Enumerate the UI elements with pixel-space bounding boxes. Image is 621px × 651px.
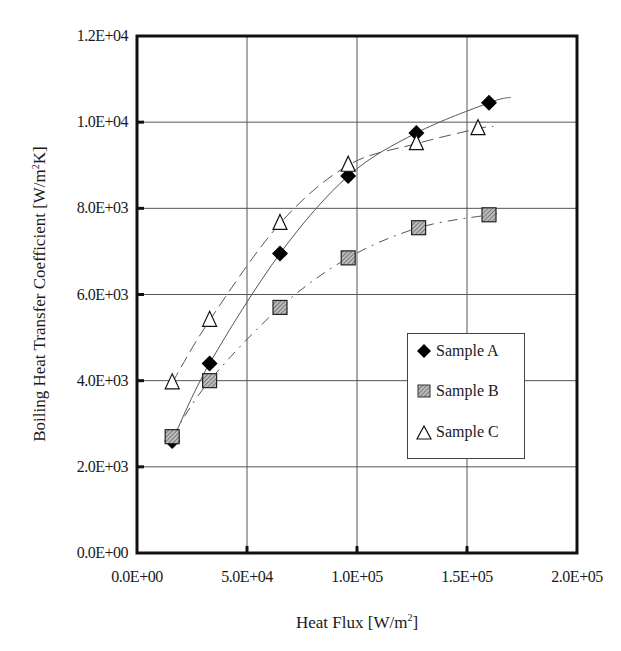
x-axis-label-end: ] bbox=[412, 613, 418, 632]
y-axis-label-text: Boiling Heat Transfer Coefficient [W/m bbox=[30, 169, 49, 442]
y-tick-label: 0.0E+00 bbox=[77, 544, 128, 562]
data-point bbox=[202, 355, 218, 371]
legend: Sample A Sample B Sample C bbox=[407, 333, 525, 459]
x-axis-label-text: Heat Flux [W/m bbox=[296, 613, 407, 632]
data-point bbox=[165, 374, 179, 389]
data-point bbox=[482, 208, 496, 222]
data-point bbox=[165, 430, 179, 444]
y-axis-label-sup: 2 bbox=[30, 164, 41, 169]
legend-item-sample-c: Sample C bbox=[416, 423, 499, 441]
legend-label: Sample B bbox=[436, 382, 499, 400]
data-point bbox=[272, 246, 288, 262]
data-point bbox=[273, 214, 287, 229]
data-point bbox=[341, 251, 355, 265]
data-point bbox=[273, 300, 287, 314]
legend-label: Sample A bbox=[436, 342, 499, 360]
y-tick-label: 1.0E+04 bbox=[77, 113, 128, 131]
grid-lines bbox=[137, 36, 577, 553]
x-tick-label: 0.0E+00 bbox=[111, 568, 162, 586]
y-tick-label: 2.0E+03 bbox=[77, 458, 128, 476]
x-axis-label: Heat Flux [W/m2] bbox=[296, 612, 418, 633]
y-axis-label-end: K] bbox=[30, 146, 49, 164]
x-tick-label: 1.0E+05 bbox=[331, 568, 382, 586]
data-point bbox=[409, 135, 423, 150]
filled-diamond-icon bbox=[416, 343, 432, 359]
data-point bbox=[412, 221, 426, 235]
legend-item-sample-a: Sample A bbox=[416, 342, 499, 360]
y-tick-label: 8.0E+03 bbox=[77, 199, 128, 217]
y-tick-label: 1.2E+04 bbox=[77, 27, 128, 45]
legend-item-sample-b: Sample B bbox=[416, 382, 499, 400]
x-tick-label: 2.0E+05 bbox=[551, 568, 602, 586]
hatched-square-icon bbox=[416, 383, 432, 399]
legend-label: Sample C bbox=[436, 423, 499, 441]
data-point bbox=[203, 374, 217, 388]
x-tick-label: 1.5E+05 bbox=[441, 568, 492, 586]
y-tick-label: 6.0E+03 bbox=[77, 286, 128, 304]
data-point bbox=[481, 95, 497, 111]
x-tick-label: 5.0E+04 bbox=[221, 568, 272, 586]
y-tick-label: 4.0E+03 bbox=[77, 372, 128, 390]
data-point bbox=[341, 156, 355, 171]
y-axis-label: Boiling Heat Transfer Coefficient [W/m2K… bbox=[30, 146, 51, 442]
open-triangle-icon bbox=[416, 424, 432, 440]
